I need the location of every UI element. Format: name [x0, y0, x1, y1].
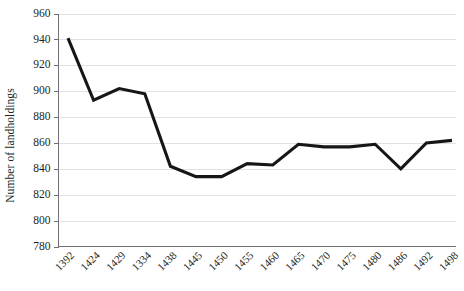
x-axis-tick-label: 1445 — [180, 249, 204, 273]
x-axis-tick-label: 1486 — [385, 249, 409, 273]
gridlines — [59, 15, 457, 222]
plot-area: 780800820840860880900920940960 139214241… — [0, 0, 464, 291]
y-axis-tick-label: 820 — [33, 188, 51, 200]
x-axis-tick-label: 1480 — [360, 249, 384, 273]
x-axis-tick-label: 1424 — [78, 249, 102, 273]
x-axis-tick-label: 1450 — [206, 249, 230, 273]
x-axis-tick-label: 1460 — [257, 249, 281, 273]
data-series-line — [68, 38, 452, 177]
y-axis-tick-labels: 780800820840860880900920940960 — [33, 7, 51, 252]
y-axis-tick-label: 900 — [33, 84, 51, 96]
x-axis-tick-label: 1465 — [283, 249, 307, 273]
y-axis-tick-label: 960 — [33, 7, 51, 19]
x-axis-tick-label: 1455 — [232, 249, 256, 273]
line-chart-landholdings: Number of landholdings 78080082084086088… — [0, 0, 464, 291]
x-axis-tick-label: 1475 — [334, 249, 358, 273]
x-axis-tick-label: 1438 — [155, 249, 179, 273]
y-axis-tick-label: 840 — [33, 162, 51, 174]
x-axis-tick-label: 1498 — [436, 249, 460, 273]
y-axis-tick-label: 860 — [33, 136, 51, 148]
x-axis-tick-label: 1470 — [308, 249, 332, 273]
y-axis-tick-label: 880 — [33, 110, 51, 122]
x-axis-tick-label: 1429 — [104, 249, 128, 273]
x-axis-tick-label: 1492 — [411, 249, 435, 273]
x-axis-tick-label: 1334 — [129, 249, 153, 273]
y-axis-tick-label: 940 — [33, 33, 51, 45]
y-axis-ticks — [54, 15, 59, 248]
y-axis-tick-label: 800 — [33, 214, 51, 226]
y-axis-tick-label: 780 — [33, 240, 51, 252]
y-axis-tick-label: 920 — [33, 58, 51, 70]
x-axis-tick-label: 1392 — [52, 249, 76, 273]
x-axis-tick-labels: 1392142414291334143814451450145514601465… — [52, 249, 460, 273]
